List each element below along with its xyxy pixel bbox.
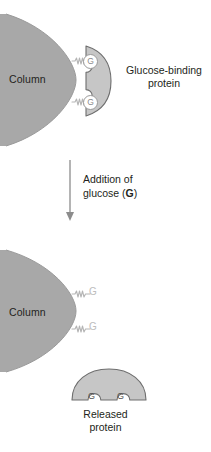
bound-ligand-label-top-2: G <box>87 98 94 107</box>
released-protein-site-label-1: G <box>88 391 95 401</box>
column-label-top: Column <box>9 73 46 86</box>
released-protein-site-label-2: G <box>117 391 124 401</box>
linker-squiggle-bottom-1 <box>72 288 90 300</box>
free-ligand-label-bottom-2: G <box>89 321 97 332</box>
affinity-chromatography-diagram: Column G G Glucose-binding protein <box>0 0 211 452</box>
bound-ligand-top-2: G <box>83 95 98 110</box>
glucose-symbol: G <box>126 187 134 199</box>
released-protein-site-1: G <box>88 392 95 401</box>
bound-ligand-top-1: G <box>83 54 98 69</box>
bottom-panel: Column G G G G Released protein <box>0 240 211 452</box>
top-panel: Column G G Glucose-binding protein <box>0 0 211 155</box>
column-label-bottom: Column <box>9 306 46 319</box>
linker-squiggle-bottom-2 <box>72 323 90 335</box>
addition-step-line-2: glucose (G) <box>83 187 137 201</box>
addition-step-line-1: Addition of <box>83 173 137 187</box>
addition-step-label: Addition of glucose (G) <box>83 173 137 200</box>
free-ligand-label-bottom-1: G <box>89 286 97 297</box>
protein-label-line-2: protein <box>118 77 210 90</box>
protein-label-line-1: Glucose-binding <box>118 64 210 77</box>
addition-step: Addition of glucose (G) <box>0 160 211 222</box>
addition-step-suffix: ) <box>134 187 138 199</box>
released-protein-caption: Released protein <box>0 408 211 434</box>
released-protein-site-2: G <box>117 392 124 401</box>
glucose-binding-protein-label: Glucose-binding protein <box>118 64 210 90</box>
released-protein-shape <box>71 368 147 402</box>
bound-ligand-label-top-1: G <box>87 57 94 66</box>
free-ligand-bottom-1: G <box>89 287 97 297</box>
released-protein-caption-line-2: protein <box>0 421 211 434</box>
released-protein-caption-line-1: Released <box>0 408 211 421</box>
free-ligand-bottom-2: G <box>89 322 97 332</box>
addition-step-prefix: glucose ( <box>83 187 126 199</box>
down-arrow-icon <box>63 160 77 222</box>
